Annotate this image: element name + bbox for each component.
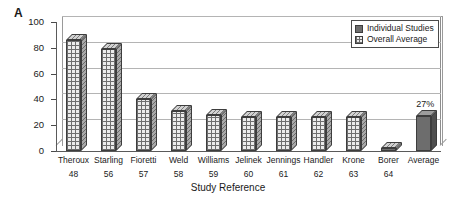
- bar-borer: [381, 148, 396, 151]
- x-label-reference: 64: [365, 169, 412, 180]
- bar-side-face: [256, 111, 262, 151]
- bar-weld: [171, 111, 186, 151]
- legend-label: Individual Studies: [367, 24, 434, 33]
- bar-front-face: [416, 116, 431, 151]
- legend-item-individual-studies: Individual Studies: [355, 23, 434, 34]
- bar-side-face: [326, 111, 332, 151]
- bar-front-face: [276, 117, 291, 151]
- bar-side-face: [81, 34, 87, 151]
- bar-jelinek: [241, 117, 256, 151]
- bar-front-face: [241, 117, 256, 151]
- bar-krone: [346, 117, 361, 151]
- panel-letter: A: [14, 6, 23, 20]
- y-tick: 20: [51, 125, 56, 126]
- bar-theroux: [66, 40, 81, 151]
- bar-side-face: [221, 109, 227, 151]
- bar-williams: [206, 115, 221, 151]
- depth-edge-right: [440, 16, 441, 145]
- bar-side-face: [431, 110, 437, 151]
- x-label-average: Average: [400, 155, 447, 169]
- bar-front-face: [101, 49, 116, 151]
- bar-front-face: [171, 111, 186, 151]
- y-tick-label: 60: [33, 69, 44, 79]
- y-tick-label: 100: [28, 17, 44, 27]
- y-tick: 60: [51, 74, 56, 75]
- bar-side-face: [116, 43, 122, 151]
- y-tick-label: 20: [33, 120, 44, 130]
- y-tick-label: 80: [33, 43, 44, 53]
- y-tick-label: 0: [39, 146, 44, 156]
- bar-front-face: [346, 117, 361, 151]
- solid-gray-swatch: [355, 25, 363, 33]
- bar-front-face: [311, 117, 326, 151]
- bar-side-face: [291, 111, 297, 151]
- bar-front-face: [136, 99, 151, 151]
- bar-side-face: [151, 93, 157, 151]
- bar-fioretti: [136, 99, 151, 151]
- y-tick: 80: [51, 48, 56, 49]
- legend-item-overall-average: Overall Average: [355, 34, 434, 45]
- bar-side-face: [186, 105, 192, 151]
- gridline: [62, 16, 441, 17]
- x-axis-line: [56, 151, 441, 152]
- y-tick: 100: [51, 22, 56, 23]
- y-tick: 40: [51, 99, 56, 100]
- bar-side-face: [361, 111, 367, 151]
- hatched-swatch: [355, 36, 363, 44]
- bar-jennings: [276, 117, 291, 151]
- sensitivity-bar-chart: A Sensitivity for CD/MI (%) 020406080100…: [0, 0, 456, 205]
- bar-handler: [311, 117, 326, 151]
- y-tick: 0: [51, 151, 56, 152]
- y-tick-label: 40: [33, 95, 44, 105]
- legend-label: Overall Average: [367, 35, 427, 44]
- legend: Individual Studies Overall Average: [351, 20, 439, 48]
- x-label-name: Average: [400, 155, 447, 166]
- bar-front-face: [66, 40, 81, 151]
- x-axis-title: Study Reference: [0, 182, 456, 193]
- y-axis-line: [56, 22, 57, 152]
- bar-front-face: [206, 115, 221, 151]
- bar-starling: [101, 49, 116, 151]
- bar-front-face: [381, 148, 396, 151]
- bar-average: 27%: [416, 116, 431, 151]
- bar-value-label: 27%: [416, 99, 434, 109]
